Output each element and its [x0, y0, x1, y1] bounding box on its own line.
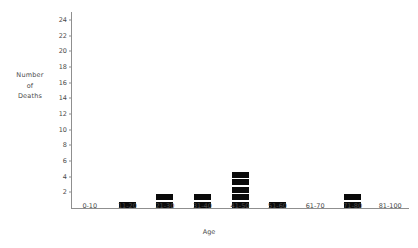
chart-container: Number of Deaths 24681012141618202224 0-…: [0, 0, 418, 248]
x-axis-tick-label: 81-100: [367, 203, 413, 210]
y-axis-tick-label: 6: [49, 158, 67, 165]
y-axis-tick-label: 20: [49, 48, 67, 55]
bar-segment: [232, 172, 249, 178]
y-axis-tick-label: 16: [49, 79, 67, 86]
plot-area: 24681012141618202224: [71, 12, 409, 209]
bars-layer: [71, 12, 409, 209]
y-axis-tick-label: 4: [49, 173, 67, 180]
y-axis-tick-label: 12: [49, 111, 67, 118]
bar-segment: [156, 194, 173, 200]
bar-segment: [232, 179, 249, 185]
bar-segment: [344, 194, 361, 200]
bar-segment: [194, 194, 211, 200]
y-axis-tick-label: 2: [49, 189, 67, 196]
y-axis-tick-label: 24: [49, 17, 67, 24]
y-axis-tick-label: 18: [49, 64, 67, 71]
y-axis-tick-label: 10: [49, 126, 67, 133]
y-axis-tick-label: 22: [49, 32, 67, 39]
y-axis-tick-label: 14: [49, 95, 67, 102]
x-axis-title: Age: [0, 228, 418, 236]
bar-segment: [232, 194, 249, 200]
y-axis-tick-label: 8: [49, 142, 67, 149]
bar-segment: [232, 187, 249, 193]
